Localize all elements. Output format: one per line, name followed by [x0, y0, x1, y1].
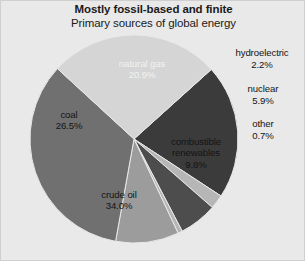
slice-label-combustible-renewables-name-line2: renewables — [153, 147, 239, 158]
slice-label-nuclear-name: nuclear — [232, 83, 294, 95]
slice-label-natural-gas-name: natural gas — [104, 58, 180, 69]
slice-label-hydroelectric: hydroelectric 2.2% — [222, 47, 302, 70]
slice-label-other: other 0.7% — [232, 118, 294, 141]
slice-label-coal-name: coal — [33, 109, 105, 120]
slice-label-combustible-renewables-value: 9.8% — [153, 159, 239, 170]
slice-label-nuclear: nuclear 5.9% — [232, 83, 294, 106]
slice-label-other-value: 0.7% — [232, 130, 294, 142]
slice-label-hydroelectric-value: 2.2% — [222, 59, 302, 71]
slice-label-crude-oil-name: crude oil — [79, 189, 159, 200]
slice-label-combustible-renewables-name-line1: combustible — [153, 136, 239, 147]
slice-label-natural-gas-value: 20.9% — [104, 69, 180, 80]
slice-label-coal-value: 26.5% — [33, 120, 105, 131]
slice-label-crude-oil: crude oil 34.0% — [79, 189, 159, 212]
pie-chart-figure: Mostly fossil-based and finite Primary s… — [0, 0, 305, 261]
slice-label-other-name: other — [232, 118, 294, 130]
slice-label-hydroelectric-name: hydroelectric — [222, 47, 302, 59]
slice-label-combustible-renewables: combustible renewables 9.8% — [153, 136, 239, 170]
slice-label-crude-oil-value: 34.0% — [79, 200, 159, 211]
slice-label-coal: coal 26.5% — [33, 109, 105, 132]
slice-label-natural-gas: natural gas 20.9% — [104, 58, 180, 81]
slice-label-nuclear-value: 5.9% — [232, 95, 294, 107]
